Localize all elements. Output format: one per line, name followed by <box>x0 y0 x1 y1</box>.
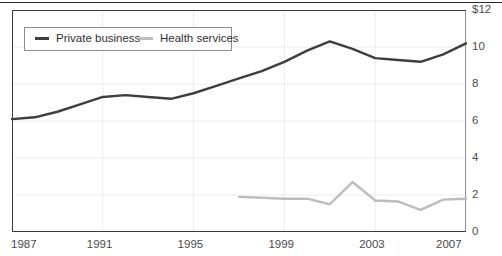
y-axis-tick-label: 6 <box>472 114 478 126</box>
y-axis-tick-label: 10 <box>472 40 485 52</box>
legend-line-swatch-icon <box>35 37 49 40</box>
y-axis-tick-label: 8 <box>472 77 478 89</box>
y-axis-tick-label: 0 <box>472 225 478 237</box>
series-line <box>239 182 466 210</box>
x-axis-tick-label: 1991 <box>87 238 113 250</box>
legend-item-health-services: Health services <box>139 32 239 44</box>
legend-item-label: Health services <box>160 32 239 44</box>
legend-item-private-business: Private business <box>35 32 140 44</box>
x-axis-tick-label: 1995 <box>178 238 204 250</box>
x-axis-tick-label: 1999 <box>268 238 294 250</box>
x-axis-tick-label: 2007 <box>436 238 462 250</box>
chart-page: $12 10 8 6 4 2 0 1987 1991 1995 1999 200… <box>0 0 502 256</box>
y-axis-tick-label: 2 <box>472 188 478 200</box>
legend-line-swatch-icon <box>139 37 153 40</box>
chart-legend: Private business Health services <box>24 27 232 51</box>
y-axis-tick-label: $12 <box>472 3 491 15</box>
x-axis-tick-label: 1987 <box>11 238 37 250</box>
data-series-group <box>12 41 466 209</box>
series-line <box>12 41 466 119</box>
x-axis-tick-label: 2003 <box>359 238 385 250</box>
legend-item-label: Private business <box>56 32 140 44</box>
y-axis-tick-label: 4 <box>472 151 478 163</box>
